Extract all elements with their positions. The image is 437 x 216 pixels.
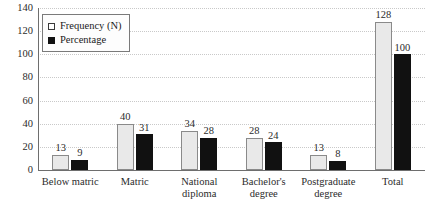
gridline [38, 54, 425, 55]
bar-percentage: 8 [329, 161, 346, 170]
bar-percentage: 100 [394, 54, 411, 170]
gridline [38, 77, 425, 78]
legend-item-percentage: Percentage [48, 33, 122, 47]
y-axis-tick-label: 20 [23, 142, 34, 153]
bar-value-label: 28 [204, 126, 215, 137]
x-axis-category-label: Matric [103, 176, 168, 188]
x-axis-line [38, 170, 425, 171]
gridline [38, 101, 425, 102]
y-axis-line [38, 8, 39, 171]
bar-percentage: 24 [265, 142, 282, 170]
x-axis-category-label: Postgraduatedegree [296, 176, 361, 200]
legend-label-frequency: Frequency (N) [60, 21, 122, 32]
y-axis-tick-label: 120 [17, 26, 33, 37]
x-axis-category-line: Postgraduate [296, 176, 361, 188]
x-axis-category-line: degree [232, 188, 297, 200]
bar-frequency: 40 [117, 124, 134, 170]
x-axis-category-line: Matric [103, 176, 168, 188]
bar-value-label: 31 [139, 123, 150, 134]
x-axis-category-label: Bachelor'sdegree [232, 176, 297, 200]
bar-percentage: 28 [200, 138, 217, 170]
bar-value-label: 100 [394, 43, 410, 54]
x-axis-category-label: Nationaldiploma [167, 176, 232, 200]
bar-chart: 139403134282824138128100 020406080100120… [0, 0, 437, 216]
bar-value-label: 8 [335, 149, 340, 160]
legend-swatch-frequency-icon [48, 23, 55, 30]
legend-label-percentage: Percentage [60, 35, 106, 46]
x-axis-category-label: Total [361, 176, 426, 188]
x-axis-category-line: degree [296, 188, 361, 200]
y-axis-tick-label: 40 [23, 118, 34, 129]
bar-frequency: 13 [310, 155, 327, 170]
bar-percentage: 9 [71, 160, 88, 170]
gridline [38, 147, 425, 148]
x-axis-category-line: Total [361, 176, 426, 188]
gridline [38, 124, 425, 125]
x-axis-category-line: diploma [167, 188, 232, 200]
gridline [38, 8, 425, 9]
bar-value-label: 9 [77, 148, 82, 159]
bar-value-label: 40 [120, 112, 131, 123]
chart-legend: Frequency (N) Percentage [42, 14, 130, 52]
bar-value-label: 24 [268, 131, 279, 142]
bar-frequency: 13 [52, 155, 69, 170]
bar-value-label: 128 [375, 10, 391, 21]
bar-value-label: 34 [185, 119, 196, 130]
y-axis-tick-label: 140 [17, 3, 33, 14]
y-axis-tick-label: 60 [23, 95, 34, 106]
x-axis-category-line: National [167, 176, 232, 188]
y-axis-tick-label: 0 [28, 165, 33, 176]
bar-value-label: 28 [249, 126, 260, 137]
y-axis-tick-label: 100 [17, 49, 33, 60]
bar-frequency: 28 [246, 138, 263, 170]
bar-percentage: 31 [136, 134, 153, 170]
x-axis-category-line: Bachelor's [232, 176, 297, 188]
legend-item-frequency: Frequency (N) [48, 19, 122, 33]
bar-value-label: 13 [314, 143, 325, 154]
bar-frequency: 128 [375, 22, 392, 170]
bar-value-label: 13 [56, 143, 67, 154]
bar-frequency: 34 [181, 131, 198, 170]
y-axis-tick-label: 80 [23, 72, 34, 83]
x-axis-category-line: Below matric [38, 176, 103, 188]
x-axis-category-label: Below matric [38, 176, 103, 188]
legend-swatch-percentage-icon [48, 37, 55, 44]
